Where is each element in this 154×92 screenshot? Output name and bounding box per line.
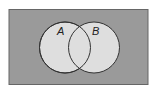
set-a-label: A xyxy=(56,25,64,37)
venn-diagram: A B xyxy=(0,0,154,92)
set-b-label: B xyxy=(92,25,99,37)
